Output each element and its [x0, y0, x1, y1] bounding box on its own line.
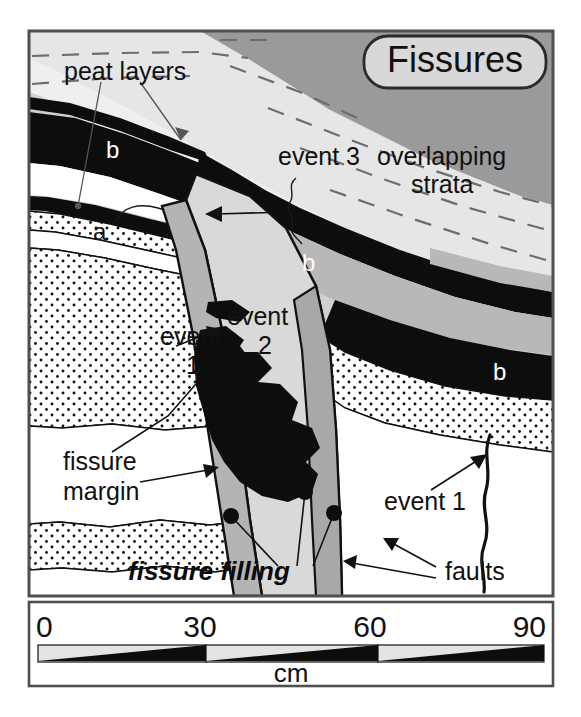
label-fissure-margin-line1: fissure — [63, 447, 137, 475]
label-overlapping-strata-line1: overlapping — [377, 142, 506, 170]
label-peat-a: a — [93, 218, 107, 245]
scale-bar-panel: 0 30 60 90 cm — [29, 602, 553, 688]
label-faults: faults — [445, 557, 505, 585]
label-event-2-number: 2 — [258, 331, 272, 359]
label-fissure-filling: fissure filling — [128, 556, 290, 586]
label-peat-layers: peat layers — [64, 57, 186, 85]
label-peat-b-upper: b — [106, 136, 119, 163]
peat-layers-leader-dot-a — [75, 203, 81, 209]
geologic-cross-section: Fissures p — [0, 0, 581, 717]
label-event-3: event 3 — [278, 142, 360, 170]
figure-root: Fissures p — [0, 0, 581, 717]
label-peat-b-right: b — [493, 358, 506, 385]
label-overlapping-strata-line2: strata — [411, 170, 474, 198]
label-event-2-word: event — [227, 302, 288, 330]
label-event-1-number: 1 — [186, 351, 200, 379]
title-box: Fissures — [364, 36, 546, 88]
label-peat-b-middle: b — [302, 249, 315, 276]
cross-section-panel — [29, 31, 553, 596]
scale-tick-0: 0 — [36, 610, 53, 643]
scale-tick-60: 60 — [353, 610, 386, 643]
figure-title: Fissures — [387, 39, 523, 80]
scale-tick-30: 30 — [183, 610, 216, 643]
label-fissure-margin-line2: margin — [63, 477, 139, 505]
scale-tick-90: 90 — [513, 610, 546, 643]
label-event-1-right: event 1 — [384, 487, 466, 515]
label-event-1-word: event — [160, 322, 221, 350]
scale-unit-label: cm — [274, 658, 309, 688]
